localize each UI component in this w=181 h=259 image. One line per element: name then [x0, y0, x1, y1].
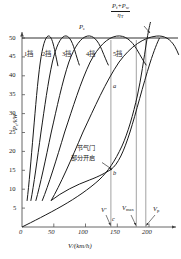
x-tick-marks [54, 224, 149, 228]
x-tick-100: 100 [78, 229, 88, 236]
gear-label-4: 4挡 [86, 51, 95, 57]
y-tick-5: 5 [13, 205, 16, 212]
y-tick-10: 10 [9, 186, 16, 193]
resistance-formula-label: Pf+Pw ηT [111, 3, 130, 19]
pe-subscript: e [83, 26, 85, 31]
axis-lines [22, 32, 176, 227]
v-prime-label: V′ [101, 207, 106, 213]
gear-label-3: 3挡 [62, 51, 71, 57]
annotation-points [110, 168, 112, 170]
gear-label-1: 1挡 [24, 51, 33, 57]
gear-curve-3 [36, 36, 108, 201]
x-tick-200: 200 [142, 229, 152, 236]
power-balance-chart: 50 45 40 35 30 25 20 15 10 5 0 50 100 15… [0, 0, 181, 259]
gear-label-5: 5挡 [113, 51, 122, 57]
y-axis-label: Pe/kW [12, 100, 20, 144]
eta-subscript: T [121, 14, 124, 19]
vertical-guides [111, 40, 146, 227]
v-max-label: Vmax [122, 205, 134, 213]
throttle-note-line2: 部分开启 [71, 155, 95, 161]
v-p-label: Vp [153, 206, 159, 214]
v-p-subscript: p [157, 208, 159, 213]
pw-subscript: w [126, 5, 129, 10]
y-axis-subscript: e [14, 124, 19, 126]
gear-label-2: 2挡 [42, 51, 51, 57]
point-b-label: b [113, 170, 116, 176]
y-tick-15: 15 [9, 167, 16, 174]
y-axis-symbol: P [11, 126, 18, 130]
point-c-label: c [112, 216, 115, 222]
y-axis-unit: /kW [11, 113, 18, 124]
formula-numerator: Pf+Pw [111, 3, 130, 11]
pe-line-label: Pe [79, 24, 85, 32]
formula-denominator: ηT [111, 11, 130, 20]
chart-canvas [0, 0, 181, 259]
x-tick-50: 50 [48, 229, 55, 236]
x-axis-label: V/(km/h) [68, 243, 92, 250]
throttle-note-leader [102, 163, 112, 170]
y-tick-40: 40 [9, 72, 16, 79]
y-tick-45: 45 [9, 53, 16, 60]
point-a-label: a [113, 83, 116, 89]
v-max-subscript: max [126, 207, 134, 212]
v-prime-prime: ′ [105, 206, 106, 213]
y-tick-50: 50 [9, 35, 16, 42]
x-tick-0: 0 [19, 229, 22, 236]
gear-curve-2 [31, 36, 79, 201]
x-tick-150: 150 [110, 229, 120, 236]
y-tick-35: 35 [9, 91, 16, 98]
throttle-note-line1: 节气门 [77, 145, 95, 151]
gear-curve-4 [42, 36, 146, 201]
y-tick-20: 20 [9, 148, 16, 155]
